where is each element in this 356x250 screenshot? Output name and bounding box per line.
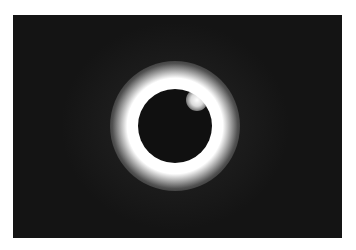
cropped-caption-fragment [0,0,356,4]
eclipse-photo [13,15,342,238]
diamond-ring-flare [186,89,208,111]
